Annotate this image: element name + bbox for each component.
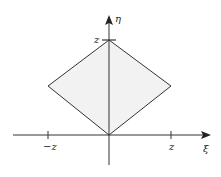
tick-label-x-pos: z: [168, 141, 175, 152]
tick-label-y-top: z: [93, 34, 100, 45]
diagram-canvas: ξ η −z z z: [0, 0, 221, 177]
tick-label-x-neg: −z: [43, 141, 57, 152]
y-axis-label: η: [115, 13, 121, 24]
x-axis-label: ξ: [203, 143, 209, 154]
